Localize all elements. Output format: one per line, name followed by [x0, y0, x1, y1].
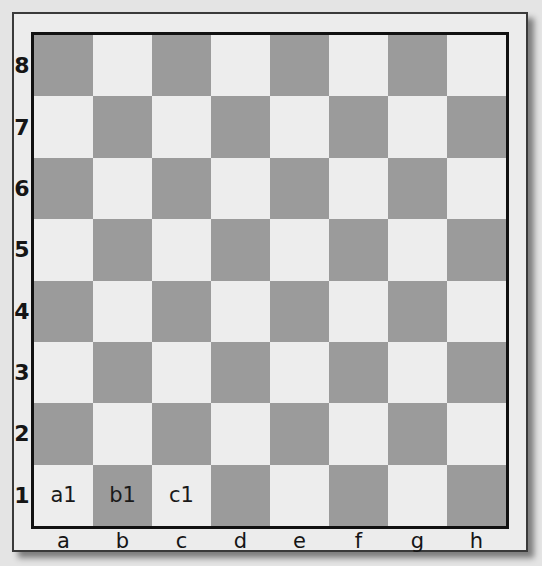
- square-h6: [447, 158, 506, 219]
- rank-label-7: 7: [12, 96, 32, 157]
- square-c7: [152, 96, 211, 157]
- square-h2: [447, 403, 506, 464]
- square-a5: [34, 219, 93, 280]
- square-g5: [388, 219, 447, 280]
- rank-label-6: 6: [12, 158, 32, 219]
- square-d2: [211, 403, 270, 464]
- square-c2: [152, 403, 211, 464]
- square-f2: [329, 403, 388, 464]
- square-e7: [270, 96, 329, 157]
- square-c5: [152, 219, 211, 280]
- square-h3: [447, 342, 506, 403]
- square-b7: [93, 96, 152, 157]
- square-h4: [447, 281, 506, 342]
- square-b1: b1: [93, 465, 152, 526]
- rank-label-4: 4: [12, 281, 32, 342]
- square-e4: [270, 281, 329, 342]
- square-a7: [34, 96, 93, 157]
- square-b5: [93, 219, 152, 280]
- square-f6: [329, 158, 388, 219]
- square-a3: [34, 342, 93, 403]
- square-b8: [93, 35, 152, 96]
- square-e6: [270, 158, 329, 219]
- square-d4: [211, 281, 270, 342]
- square-e2: [270, 403, 329, 464]
- square-a2: [34, 403, 93, 464]
- square-a6: [34, 158, 93, 219]
- square-b3: [93, 342, 152, 403]
- file-label-d: d: [211, 529, 270, 552]
- square-g2: [388, 403, 447, 464]
- square-g8: [388, 35, 447, 96]
- rank-labels: 8 7 6 5 4 3 2 1: [12, 35, 32, 526]
- rank-label-5: 5: [12, 219, 32, 280]
- file-label-g: g: [388, 529, 447, 552]
- square-h7: [447, 96, 506, 157]
- square-h8: [447, 35, 506, 96]
- square-h1: [447, 465, 506, 526]
- file-label-e: e: [270, 529, 329, 552]
- square-label-a1: a1: [34, 483, 93, 507]
- square-g3: [388, 342, 447, 403]
- square-a4: [34, 281, 93, 342]
- square-e8: [270, 35, 329, 96]
- square-f3: [329, 342, 388, 403]
- square-f4: [329, 281, 388, 342]
- square-e1: [270, 465, 329, 526]
- square-c8: [152, 35, 211, 96]
- file-label-h: h: [447, 529, 506, 552]
- rank-label-8: 8: [12, 35, 32, 96]
- square-d7: [211, 96, 270, 157]
- square-g4: [388, 281, 447, 342]
- square-d6: [211, 158, 270, 219]
- square-g6: [388, 158, 447, 219]
- square-g7: [388, 96, 447, 157]
- square-h5: [447, 219, 506, 280]
- square-f5: [329, 219, 388, 280]
- square-a8: [34, 35, 93, 96]
- square-d3: [211, 342, 270, 403]
- square-label-c1: c1: [152, 483, 211, 507]
- square-g1: [388, 465, 447, 526]
- square-b2: [93, 403, 152, 464]
- square-a1: a1: [34, 465, 93, 526]
- square-d5: [211, 219, 270, 280]
- square-f7: [329, 96, 388, 157]
- square-e3: [270, 342, 329, 403]
- square-c6: [152, 158, 211, 219]
- square-d1: [211, 465, 270, 526]
- file-label-c: c: [152, 529, 211, 552]
- square-e5: [270, 219, 329, 280]
- file-label-b: b: [93, 529, 152, 552]
- file-label-f: f: [329, 529, 388, 552]
- rank-label-3: 3: [12, 342, 32, 403]
- rank-label-2: 2: [12, 403, 32, 464]
- rank-label-1: 1: [12, 465, 32, 526]
- square-label-b1: b1: [93, 483, 152, 507]
- square-f1: [329, 465, 388, 526]
- square-b6: [93, 158, 152, 219]
- file-labels: a b c d e f g h: [34, 529, 506, 552]
- file-label-a: a: [34, 529, 93, 552]
- chess-board: a1b1c1: [31, 32, 509, 529]
- square-c1: c1: [152, 465, 211, 526]
- square-b4: [93, 281, 152, 342]
- square-d8: [211, 35, 270, 96]
- square-c3: [152, 342, 211, 403]
- square-f8: [329, 35, 388, 96]
- square-c4: [152, 281, 211, 342]
